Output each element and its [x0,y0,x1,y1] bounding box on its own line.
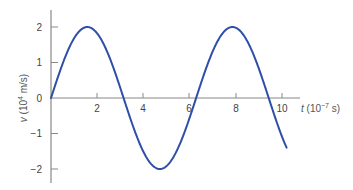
x-tick-label: 2 [94,103,100,114]
x-tick-label: 10 [276,103,288,114]
y-tick-label: 2 [36,22,42,33]
y-tick-label: 0 [36,93,42,104]
y-tick-label: −2 [31,164,43,175]
velocity-time-chart: 2 1 0 −1 −2 2 4 6 8 10 t (10−7 s) v (104… [0,0,353,190]
y-axis-label: v (104 m/s) [17,74,29,122]
y-tick-label: −1 [31,128,43,139]
x-tick-label: 8 [233,103,239,114]
x-axis-label: t (10−7 s) [301,102,340,114]
y-tick-label: 1 [36,57,42,68]
x-tick-label: 4 [140,103,146,114]
